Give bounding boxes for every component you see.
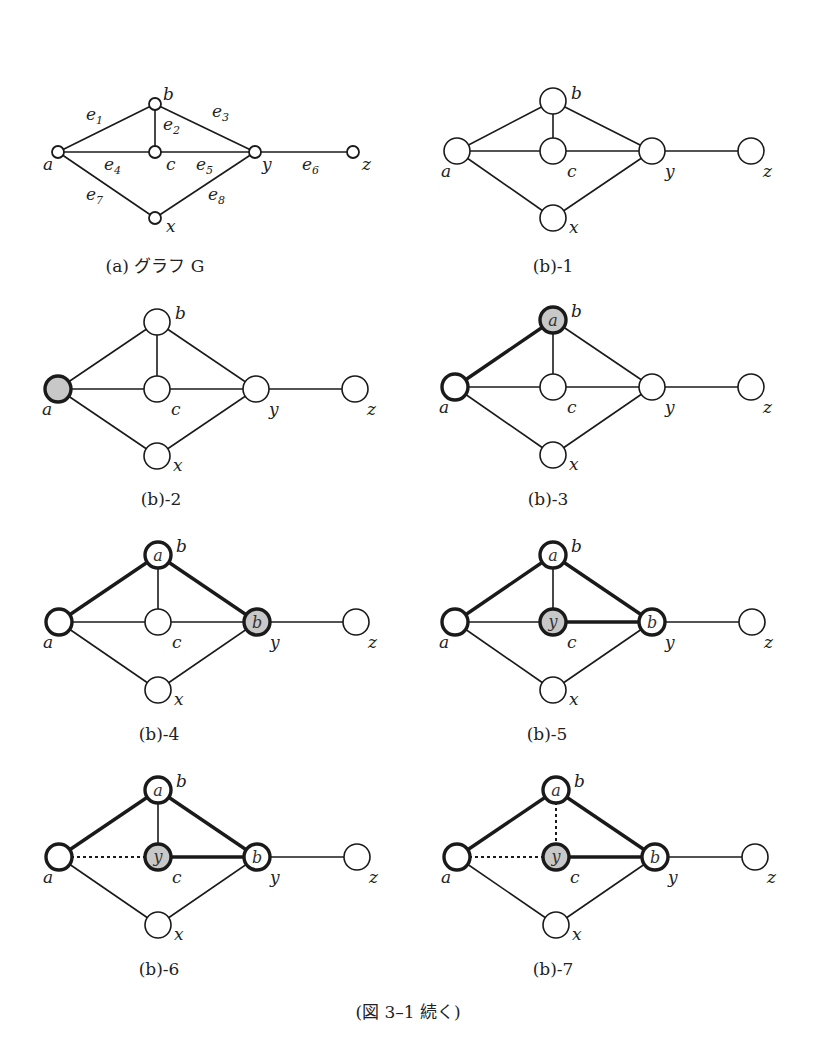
vertex-label-x: x: [173, 455, 183, 475]
vertex-label-a: a: [43, 154, 53, 174]
vertex-label-y: y: [261, 154, 272, 174]
edge-e1: [58, 104, 155, 152]
edge-e1-tree: [59, 555, 158, 622]
vertex-label-x: x: [572, 924, 582, 944]
parent-label-b: a: [551, 781, 561, 800]
vertex-label-z: z: [762, 397, 773, 417]
vertex-z: [344, 844, 370, 870]
graph-search-figure: a b c y z x e1 e2 e3 e4 e5 e6 e7 e8 (a) …: [0, 0, 816, 1057]
panel-caption-b2: (b)-2: [141, 489, 182, 509]
vertex-z: [738, 138, 764, 164]
vertex-b: [540, 88, 566, 114]
vertex-label-b: b: [163, 84, 174, 104]
vertex-y: [639, 374, 665, 400]
vertex-label-c: c: [567, 397, 577, 417]
panel-caption-b7: (b)-7: [533, 959, 574, 979]
panel-b4: a b a b c y z x (b)-4: [43, 536, 378, 744]
vertex-label-y: y: [268, 399, 279, 419]
vertex-label-x: x: [174, 689, 184, 709]
vertex-label-a: a: [43, 632, 53, 652]
edge-e7: [59, 857, 158, 925]
vertex-label-z: z: [763, 632, 774, 652]
vertex-x: [540, 677, 566, 703]
vertex-label-x: x: [174, 924, 184, 944]
parent-label-y: b: [252, 613, 262, 632]
vertex-z: [738, 374, 764, 400]
vertex-b: [144, 309, 170, 335]
vertex-label-b: b: [176, 536, 187, 556]
vertex-label-y: y: [269, 632, 280, 652]
edge-e3-tree: [158, 555, 257, 622]
edge-e1-tree: [455, 320, 553, 387]
vertex-label-y: y: [667, 867, 678, 887]
vertex-z: [742, 844, 768, 870]
vertex-label-b: b: [571, 536, 582, 556]
edge-e3-tree: [553, 555, 652, 622]
vertex-label-c: c: [567, 632, 577, 652]
panel-b5: a b y a b c y z x (b)-5: [439, 536, 774, 744]
edge-e3: [157, 322, 256, 389]
vertex-label-b: b: [574, 771, 585, 791]
vertex-c: [540, 138, 566, 164]
edge-e7: [457, 151, 553, 218]
edge-label-e5: e5: [196, 154, 213, 177]
edge-e1: [457, 101, 553, 151]
vertex-x: [149, 212, 161, 224]
vertex-label-x: x: [569, 454, 579, 474]
vertex-label-y: y: [664, 161, 675, 181]
vertex-a: [52, 146, 64, 158]
parent-label-b: a: [153, 781, 163, 800]
vertex-label-z: z: [368, 867, 379, 887]
edge-label-e4: e4: [104, 154, 121, 177]
vertex-b: [149, 98, 161, 110]
vertex-label-b: b: [175, 303, 186, 323]
panel-b1: a b c y z x (b)-1: [441, 83, 773, 276]
vertex-label-c: c: [567, 161, 577, 181]
vertex-label-a: a: [441, 161, 451, 181]
vertex-label-c: c: [172, 632, 182, 652]
edge-e3-tree: [158, 790, 257, 857]
parent-label-b: a: [548, 546, 558, 565]
vertex-x: [540, 442, 566, 468]
edge-e3: [553, 320, 652, 387]
vertex-label-x: x: [569, 689, 579, 709]
vertex-c: [145, 609, 171, 635]
panel-caption-a: (a) グラフ G: [106, 256, 205, 276]
vertex-label-y: y: [664, 632, 675, 652]
edge-e1-tree: [59, 790, 158, 857]
figure-caption: (図 3–1 続く): [355, 1002, 460, 1022]
edge-e7: [58, 389, 157, 456]
edge-e7: [455, 387, 553, 455]
vertex-y: [243, 376, 269, 402]
panel-caption-b1: (b)-1: [533, 256, 574, 276]
vertex-c: [149, 146, 161, 158]
edge-e7: [455, 622, 553, 690]
vertex-y: [249, 146, 261, 158]
edge-label-e1: e1: [86, 104, 103, 127]
vertex-label-a: a: [42, 399, 52, 419]
vertex-label-y: y: [664, 397, 675, 417]
vertex-label-a: a: [439, 397, 449, 417]
vertex-x: [543, 912, 569, 938]
vertex-label-c: c: [171, 399, 181, 419]
vertex-label-z: z: [762, 161, 773, 181]
panel-a-labels: a b c y z x e1 e2 e3 e4 e5 e6 e7 e8 (a) …: [43, 84, 372, 276]
vertex-c: [144, 376, 170, 402]
vertex-y: [639, 138, 665, 164]
vertex-label-a: a: [43, 867, 53, 887]
vertex-z: [347, 146, 359, 158]
vertex-label-b: b: [571, 301, 582, 321]
parent-label-c: y: [550, 847, 561, 866]
vertex-label-a: a: [439, 632, 449, 652]
panel-caption-b4: (b)-4: [139, 724, 180, 744]
parent-label-y: b: [252, 848, 262, 867]
vertex-label-z: z: [361, 154, 372, 174]
edge-e1-tree: [457, 790, 556, 857]
vertex-label-x: x: [166, 216, 176, 236]
edge-label-e8: e8: [208, 184, 225, 207]
parent-label-b: a: [153, 546, 163, 565]
edge-e3-tree: [556, 790, 655, 857]
vertex-label-z: z: [366, 399, 377, 419]
edge-e7: [59, 622, 158, 690]
panel-b6: a b y a b c y z x (b)-6: [43, 771, 379, 979]
